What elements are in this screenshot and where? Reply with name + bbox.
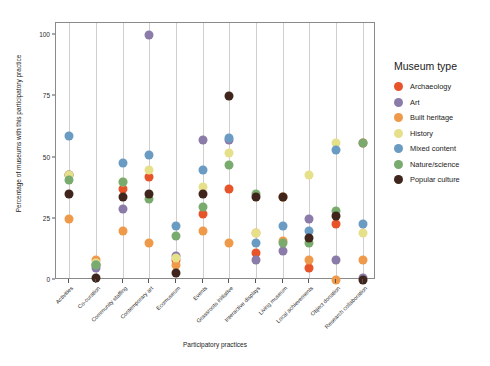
data-point — [225, 92, 234, 101]
legend-title: Museum type — [394, 60, 490, 72]
legend-swatch-icon — [394, 160, 403, 169]
data-point — [92, 261, 101, 270]
category-gridline — [203, 23, 204, 278]
data-point — [198, 136, 207, 145]
data-point — [65, 175, 74, 184]
legend-item-label: History — [410, 129, 433, 138]
legend-item[interactable]: Popular culture — [394, 175, 490, 184]
x-axis-title: Participatory practices — [55, 341, 375, 348]
data-point — [118, 158, 127, 167]
legend-item-label: Art — [410, 98, 419, 107]
data-point — [358, 229, 367, 238]
data-point — [65, 131, 74, 140]
data-point — [305, 234, 314, 243]
data-point — [172, 231, 181, 240]
legend-item[interactable]: Art — [394, 98, 490, 107]
data-point — [332, 146, 341, 155]
legend-swatch-icon — [394, 98, 403, 107]
data-point — [278, 239, 287, 248]
y-tick-label: 100 — [39, 31, 50, 38]
data-point — [305, 214, 314, 223]
data-point — [305, 256, 314, 265]
data-point — [225, 134, 234, 143]
legend-swatch-icon — [394, 129, 403, 138]
data-point — [278, 192, 287, 201]
legend-item-label: Popular culture — [410, 175, 460, 184]
data-point — [252, 192, 261, 201]
data-point — [65, 214, 74, 223]
data-point — [358, 138, 367, 147]
data-point — [118, 192, 127, 201]
legend-swatch-icon — [394, 175, 403, 184]
legend-item[interactable]: Mixed content — [394, 144, 490, 153]
data-point — [225, 239, 234, 248]
legend-item-label: Built heritage — [410, 113, 453, 122]
category-gridline — [69, 23, 70, 278]
data-point — [225, 185, 234, 194]
data-point — [198, 190, 207, 199]
x-tick-mark — [228, 279, 229, 283]
x-tick-mark — [175, 279, 176, 283]
y-tick-label: 25 — [43, 214, 50, 221]
data-point — [252, 229, 261, 238]
legend-item-label: Archaeology — [410, 82, 451, 91]
x-tick-label: Events — [192, 285, 208, 301]
data-point — [172, 268, 181, 277]
category-gridline — [123, 23, 124, 278]
legend-item[interactable]: Nature/science — [394, 160, 490, 169]
legend-item-label: Nature/science — [410, 160, 459, 169]
legend-item-label: Mixed content — [410, 144, 456, 153]
data-point — [118, 227, 127, 236]
data-point — [145, 190, 154, 199]
x-tick-mark — [255, 279, 256, 283]
scatter-chart-figure: 0255075100 Percentage of museums with th… — [0, 0, 490, 366]
category-gridline — [96, 23, 97, 278]
legend-swatch-icon — [394, 113, 403, 122]
legend: Museum type ArchaeologyArtBuilt heritage… — [394, 60, 490, 191]
x-tick-mark — [362, 279, 363, 283]
legend-item[interactable]: Built heritage — [394, 113, 490, 122]
data-point — [198, 202, 207, 211]
y-tick-label: 50 — [43, 153, 50, 160]
y-axis: 0255075100 — [36, 22, 55, 279]
legend-item[interactable]: Archaeology — [394, 82, 490, 91]
data-point — [118, 205, 127, 214]
data-point — [252, 239, 261, 248]
data-point — [172, 222, 181, 231]
data-point — [358, 256, 367, 265]
data-point — [252, 256, 261, 265]
x-tick-mark — [122, 279, 123, 283]
x-axis: ActivitiesCo-curationCommunity staffingC… — [55, 279, 375, 339]
x-tick-mark — [308, 279, 309, 283]
legend-swatch-icon — [394, 82, 403, 91]
data-point — [145, 31, 154, 40]
x-tick-mark — [68, 279, 69, 283]
data-point — [278, 222, 287, 231]
y-axis-title: Percentage of museums with this particip… — [15, 19, 22, 249]
data-point — [145, 165, 154, 174]
x-tick-mark — [202, 279, 203, 283]
data-point — [65, 190, 74, 199]
data-point — [332, 256, 341, 265]
data-point — [118, 178, 127, 187]
y-tick-label: 0 — [46, 276, 50, 283]
x-tick-label: Ecomuseum — [155, 285, 181, 311]
x-tick-mark — [282, 279, 283, 283]
data-point — [225, 148, 234, 157]
legend-item[interactable]: History — [394, 129, 490, 138]
x-tick-mark — [335, 279, 336, 283]
data-point — [172, 253, 181, 262]
x-tick-label: Co-curation — [77, 285, 102, 310]
x-tick-mark — [148, 279, 149, 283]
x-tick-mark — [95, 279, 96, 283]
data-point — [145, 239, 154, 248]
data-point — [198, 165, 207, 174]
data-point — [225, 160, 234, 169]
x-tick-label: Activities — [55, 285, 75, 305]
y-tick-label: 75 — [43, 92, 50, 99]
data-point — [358, 219, 367, 228]
data-point — [198, 227, 207, 236]
data-point — [305, 170, 314, 179]
data-point — [332, 212, 341, 221]
data-point — [145, 151, 154, 160]
